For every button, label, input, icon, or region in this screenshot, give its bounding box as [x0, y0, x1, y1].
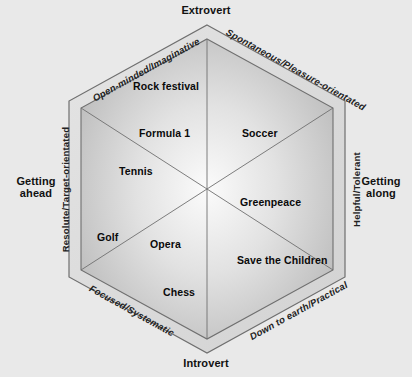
- item-label-chess: Chess: [163, 286, 195, 298]
- item-label-formula-1: Formula 1: [139, 127, 190, 139]
- item-label-greenpeace: Greenpeace: [240, 196, 301, 208]
- item-label-golf: Golf: [97, 231, 118, 243]
- edge-label-resolute-target-orientated: Resolute/Target-orientated: [60, 120, 71, 260]
- item-label-rock-festival: Rock festival: [133, 80, 199, 92]
- item-label-save-the-children: Save the Children: [237, 254, 327, 266]
- item-label-tennis: Tennis: [119, 165, 153, 177]
- pole-label-introvert: Introvert: [0, 357, 412, 369]
- pole-label-extrovert: Extrovert: [0, 4, 412, 16]
- pole-label-getting-ahead: Getting ahead: [6, 175, 66, 199]
- edge-label-helpful-tolerant: Helpful/Tolerant: [351, 135, 362, 245]
- item-label-opera: Opera: [150, 238, 181, 250]
- item-label-soccer: Soccer: [242, 127, 278, 139]
- hexagon-diagram: Extrovert Introvert Getting ahead Gettin…: [0, 0, 412, 377]
